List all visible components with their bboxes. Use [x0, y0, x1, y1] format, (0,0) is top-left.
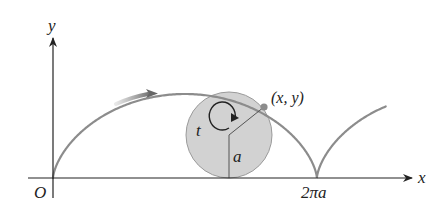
x-axis-label: x: [417, 168, 426, 187]
origin-label: O: [34, 183, 46, 202]
tracing-point: [260, 103, 267, 110]
period-tick-label: 2πa: [301, 183, 327, 202]
radius-label: a: [233, 147, 242, 166]
y-axis-label: y: [46, 16, 56, 35]
cycloid-diagram: y x O (x, y) t a 2πa: [0, 0, 447, 220]
point-label: (x, y): [271, 89, 304, 107]
